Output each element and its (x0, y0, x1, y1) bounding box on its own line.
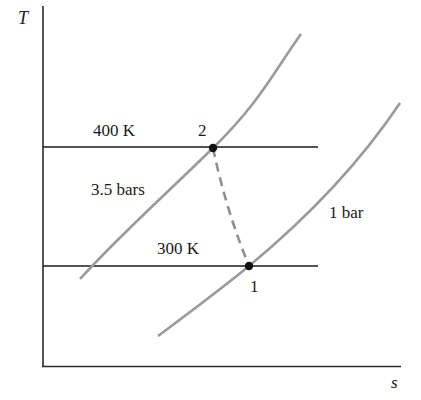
ts-diagram: T s 400 K 300 K 3.5 bars 1 bar 2 1 (0, 0, 421, 400)
isotherm-400k-label: 400 K (93, 121, 136, 140)
x-axis-label: s (391, 373, 398, 392)
process-line-1-2 (213, 148, 249, 266)
state-point-2 (209, 144, 217, 152)
isobar-3-5-bars-label: 3.5 bars (91, 180, 145, 199)
isobar-1-bar (158, 103, 400, 336)
state-1-label: 1 (250, 277, 259, 296)
y-axis-label: T (18, 8, 30, 28)
state-2-label: 2 (198, 121, 207, 140)
isobar-1-bar-label: 1 bar (329, 203, 364, 222)
isotherm-300k-label: 300 K (157, 239, 200, 258)
state-point-1 (245, 262, 253, 270)
